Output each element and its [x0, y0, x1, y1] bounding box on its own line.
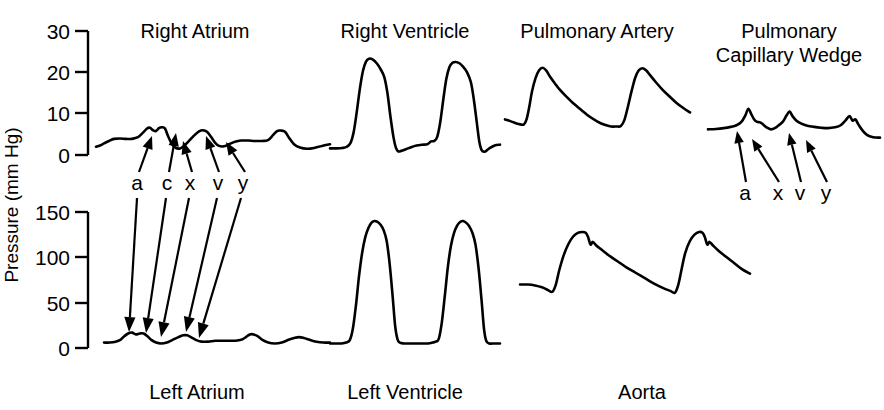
panel-title-pcw-line1: Pulmonary: [741, 20, 837, 42]
pressure-waveform-figure: Pressure (mm Hg) 30 20 10 0 150 100 50 0: [0, 0, 884, 410]
arrow-shaft: [130, 198, 137, 317]
bottom-axis-label-50: 50: [47, 292, 70, 315]
arrow-head: [184, 316, 195, 332]
trace-left-ventricle: [330, 221, 500, 344]
panel-title-right-ventricle: Right Ventricle: [341, 20, 470, 42]
arrow-shaft: [210, 148, 219, 172]
arrow-head: [734, 131, 743, 144]
trace-pulmonary-capillary-wedge: [708, 109, 880, 138]
y-axis-title: Pressure (mm Hg): [1, 127, 22, 282]
top-axis-label-30: 30: [47, 20, 70, 43]
ra-wave-letter-c: c: [162, 171, 173, 194]
top-axis: 30 20 10 0: [47, 20, 88, 167]
arrow-shaft: [187, 154, 192, 173]
top-axis-label-20: 20: [47, 61, 70, 84]
arrow-shaft: [739, 143, 746, 182]
trace-aorta: [520, 232, 750, 293]
panel-title-left-atrium: Left Atrium: [149, 381, 245, 403]
ra-wave-letter-a: a: [131, 171, 143, 194]
panel-title-aorta: Aorta: [618, 381, 667, 403]
bottom-axis: 150 100 50 0: [35, 201, 88, 360]
arrow-shaft: [792, 145, 801, 182]
arrow-head: [143, 136, 153, 150]
trace-right-ventricle: [330, 59, 500, 152]
pcw-wave-letter-y: y: [821, 181, 832, 204]
arrow-shaft: [169, 146, 174, 172]
arrow-shaft: [189, 198, 217, 317]
panel-title-right-atrium: Right Atrium: [141, 20, 250, 42]
figure-canvas: Pressure (mm Hg) 30 20 10 0 150 100 50 0: [0, 0, 884, 410]
arrow-head: [787, 133, 796, 146]
ra-wave-letter-y: y: [238, 171, 249, 194]
trace-left-atrium: [104, 333, 330, 344]
pcw-wave-letter-v: v: [795, 181, 806, 204]
pcw-wave-arrows: [734, 131, 827, 182]
panel-title-pcw-line2: Capillary Wedge: [716, 44, 862, 66]
arrow-head: [806, 140, 816, 153]
arrow-shaft: [139, 148, 148, 172]
panel-title-pulmonary-artery: Pulmonary Artery: [520, 20, 673, 42]
arrow-shaft: [811, 151, 827, 182]
bottom-axis-label-100: 100: [35, 246, 70, 269]
arrow-head: [752, 139, 762, 152]
arrow-head: [143, 317, 154, 333]
bottom-axis-label-150: 150: [35, 201, 70, 224]
waveform-traces: [96, 59, 880, 344]
arrow-head: [159, 321, 170, 337]
trace-pulmonary-artery: [505, 68, 690, 127]
ra-wave-letter-v: v: [213, 171, 224, 194]
pcw-wave-letter-a: a: [739, 181, 751, 204]
top-axis-label-0: 0: [58, 144, 70, 167]
arrow-shaft: [148, 198, 166, 318]
arrow-shaft: [233, 153, 245, 172]
top-axis-label-10: 10: [47, 102, 70, 125]
panel-title-left-ventricle: Left Ventricle: [347, 381, 463, 403]
bottom-axis-label-0: 0: [58, 337, 70, 360]
ra-wave-letter-x: x: [185, 171, 196, 194]
arrow-head: [198, 322, 209, 338]
arrow-shaft: [164, 198, 189, 322]
arrow-head: [124, 317, 135, 332]
ra-to-la-connector-arrows: [124, 198, 241, 338]
arrow-shaft: [758, 149, 779, 182]
pcw-wave-letter-x: x: [773, 181, 784, 204]
arrow-shaft: [203, 198, 241, 324]
